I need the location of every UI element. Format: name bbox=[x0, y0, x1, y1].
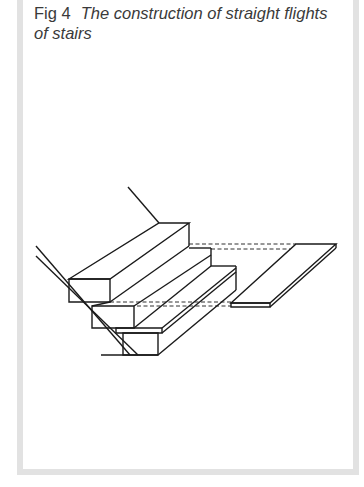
step-bottom-nosing bbox=[116, 328, 162, 333]
step-top-tread bbox=[69, 223, 189, 279]
wall-line bbox=[128, 187, 159, 223]
loose-tread-front bbox=[231, 303, 270, 307]
stringer-line-outer bbox=[36, 246, 130, 355]
step-bottom-riser bbox=[123, 333, 158, 355]
stair-illustration bbox=[0, 0, 364, 487]
